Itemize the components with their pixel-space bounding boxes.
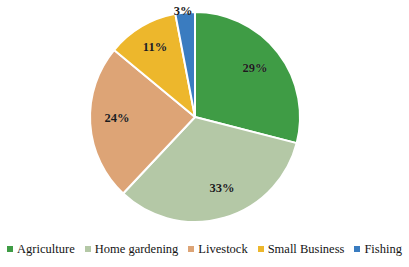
pie-chart: 29%33%24%11%3% [0,0,409,232]
legend-label-livestock: Livestock [198,243,247,256]
legend-label-home-gardening: Home gardening [95,243,179,256]
pie-label-small-business: 11% [143,40,167,55]
legend-label-small-business: Small Business [268,243,345,256]
legend-item-agriculture[interactable]: Agriculture [7,243,75,256]
legend-item-small-business[interactable]: Small Business [258,243,345,256]
legend-item-fishing[interactable]: Fishing [354,243,402,256]
legend-item-livestock[interactable]: Livestock [188,243,247,256]
pie-label-fishing: 3% [174,4,193,19]
chart-legend: AgricultureHome gardeningLivestockSmall … [0,236,409,262]
legend-label-fishing: Fishing [364,243,402,256]
legend-swatch-small-business [258,246,264,252]
legend-swatch-agriculture [7,246,13,252]
legend-swatch-fishing [354,246,360,252]
legend-swatch-home-gardening [85,246,91,252]
legend-swatch-livestock [188,246,194,252]
legend-label-agriculture: Agriculture [17,243,75,256]
legend-item-home-gardening[interactable]: Home gardening [85,243,179,256]
pie-label-home-gardening: 33% [210,181,235,196]
pie-label-agriculture: 29% [243,61,268,76]
pie-label-livestock: 24% [105,111,130,126]
pie-chart-svg [0,0,409,232]
